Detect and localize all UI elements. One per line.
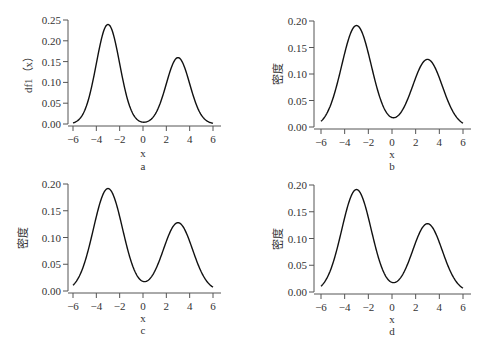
x-tick-label: −2: [114, 300, 126, 312]
x-tick-label: 2: [413, 136, 419, 148]
x-tick-label: 4: [437, 301, 443, 313]
x-tick-label: 6: [210, 300, 216, 312]
x-tick-label: 4: [437, 136, 443, 148]
x-tick-label: 0: [389, 136, 395, 148]
y-tick-label: 0.00: [42, 118, 62, 130]
x-tick-label: 0: [140, 133, 146, 145]
panel-c: 0.000.050.100.150.20−6−4−20246xc密度: [16, 178, 221, 336]
x-tick-label: 6: [460, 136, 466, 148]
x-axis-label: x: [140, 312, 146, 324]
figure-canvas: 0.000.050.100.150.200.25−6−4−20246xadf1（…: [0, 0, 480, 349]
y-tick-label: 0.20: [288, 15, 308, 27]
density-curve: [321, 190, 463, 289]
x-tick-label: 2: [413, 301, 419, 313]
y-tick-label: 0.05: [288, 95, 308, 107]
x-tick-label: −6: [67, 133, 79, 145]
x-tick-label: −4: [339, 136, 351, 148]
x-tick-label: −6: [315, 301, 327, 313]
x-tick-label: −4: [90, 133, 102, 145]
x-tick-label: 2: [164, 300, 170, 312]
y-tick-label: 0.15: [42, 56, 62, 68]
y-tick-label: 0.05: [42, 97, 62, 109]
y-tick-label: 0.05: [288, 259, 308, 271]
x-tick-label: −4: [90, 300, 102, 312]
panel-a: 0.000.050.100.150.200.25−6−4−20246xadf1（…: [22, 14, 221, 172]
x-tick-label: −6: [67, 300, 79, 312]
x-tick-label: −2: [362, 136, 374, 148]
y-tick-label: 0.00: [42, 285, 62, 297]
x-tick-label: 0: [389, 301, 395, 313]
x-tick-label: −2: [114, 133, 126, 145]
y-tick-label: 0.05: [42, 258, 62, 270]
y-tick-label: 0.00: [288, 121, 308, 133]
y-tick-label: 0.10: [288, 233, 308, 245]
y-tick-label: 0.10: [42, 232, 62, 244]
x-tick-label: 4: [187, 133, 193, 145]
x-axis-label: x: [389, 313, 395, 325]
x-tick-label: −6: [315, 136, 327, 148]
panel-caption: d: [389, 325, 395, 337]
y-tick-label: 0.10: [288, 68, 308, 80]
x-tick-label: 4: [187, 300, 193, 312]
y-axis-label: 密度: [271, 63, 284, 85]
y-tick-label: 0.15: [42, 205, 62, 217]
panel-b: 0.000.050.100.150.20−6−4−20246xb密度: [271, 15, 471, 172]
x-tick-label: −4: [339, 301, 351, 313]
y-tick-label: 0.10: [42, 76, 62, 88]
y-axis-label: df1（x）: [22, 51, 34, 93]
x-tick-label: −2: [362, 301, 374, 313]
y-tick-label: 0.15: [288, 206, 308, 218]
x-axis-label: x: [140, 147, 146, 159]
y-tick-label: 0.20: [288, 179, 308, 191]
x-tick-label: 6: [460, 301, 466, 313]
panel-caption: a: [141, 160, 146, 172]
x-axis-label: x: [389, 148, 395, 160]
x-tick-label: 6: [210, 133, 216, 145]
density-curve: [73, 24, 213, 123]
panel-d: 0.000.050.100.150.20−6−4−20246xd密度: [271, 179, 471, 337]
x-tick-label: 0: [140, 300, 146, 312]
panel-caption: b: [389, 160, 395, 172]
y-tick-label: 0.00: [288, 286, 308, 298]
y-axis-label: 密度: [271, 228, 284, 250]
panel-caption: c: [141, 324, 146, 336]
y-tick-label: 0.20: [42, 35, 62, 47]
density-curve: [321, 26, 463, 124]
x-tick-label: 2: [164, 133, 170, 145]
y-tick-label: 0.15: [288, 42, 308, 54]
y-tick-label: 0.20: [42, 178, 62, 190]
y-tick-label: 0.25: [42, 14, 62, 26]
density-curve: [73, 189, 213, 288]
y-axis-label: 密度: [16, 227, 29, 249]
